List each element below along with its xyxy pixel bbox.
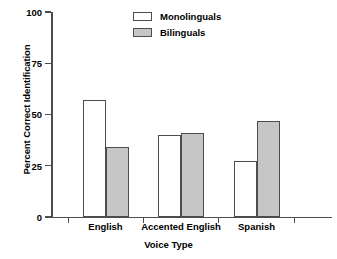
category-label-accented-english: Accented English (141, 221, 221, 232)
y-tick-label: 100 (26, 6, 42, 17)
y-tick-75: 75 (45, 63, 51, 64)
y-tick-100: 100 (45, 11, 51, 12)
bar-accented-english-bilinguals (181, 133, 204, 217)
category-label-spanish: Spanish (238, 221, 275, 232)
y-axis-title: Percent Correct Identification (21, 10, 32, 210)
bar-english-monolinguals (83, 100, 106, 217)
x-tick-3 (294, 218, 295, 223)
y-tick-25: 25 (45, 165, 51, 166)
bar-chart: Percent Correct Identification 025507510… (0, 0, 337, 259)
x-tick-0 (68, 218, 69, 223)
bar-accented-english-monolinguals (158, 135, 181, 217)
bar-spanish-bilinguals (257, 121, 280, 217)
chart-legend: MonolingualsBilinguals (133, 8, 221, 40)
y-tick-label: 0 (37, 211, 42, 222)
bar-english-bilinguals (106, 147, 129, 217)
legend-item-monolinguals: Monolinguals (133, 8, 221, 24)
gray-swatch (133, 28, 152, 37)
bar-spanish-monolinguals (234, 161, 257, 217)
y-tick-0: 0 (45, 216, 51, 217)
y-tick-50: 50 (45, 114, 51, 115)
y-tick-label: 50 (31, 109, 42, 120)
x-axis-title: Voice Type (0, 239, 337, 250)
y-axis-line (51, 12, 53, 218)
legend-label: Bilinguals (160, 27, 205, 38)
y-tick-label: 75 (31, 58, 42, 69)
legend-label: Monolinguals (160, 11, 221, 22)
white-swatch (133, 12, 152, 21)
legend-item-bilinguals: Bilinguals (133, 24, 221, 40)
category-label-english: English (88, 221, 122, 232)
y-tick-label: 25 (31, 160, 42, 171)
